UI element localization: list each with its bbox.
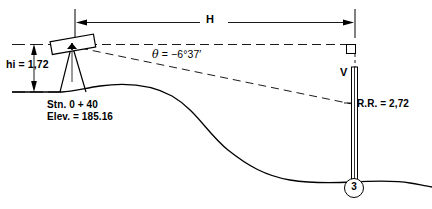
label-rod-reading: R.R. = 2,72 — [357, 98, 409, 110]
label-vertical-angle: θ = −6°37′ — [152, 48, 201, 62]
tripod-leg-right — [73, 48, 86, 92]
label-station: Stn. 0 + 40 — [47, 99, 113, 111]
label-point-number: 3 — [347, 181, 361, 193]
label-instrument-height: hi = 1,72 — [6, 58, 49, 70]
label-vertical-distance: V — [340, 66, 347, 79]
surveying-diagram: H hi = 1,72 θ = −6°37′ Stn. 0 + 40 Elev.… — [0, 0, 432, 209]
arrowhead-hi-bottom-icon — [31, 81, 37, 92]
label-elevation: Elev. = 185.16 — [47, 111, 113, 123]
label-horizontal-distance: H — [206, 13, 214, 26]
theta-value: = −6°37′ — [159, 48, 202, 60]
theta-symbol: θ — [152, 48, 159, 61]
right-angle-marker-icon — [347, 45, 356, 54]
tripod-leg-left — [60, 48, 71, 92]
arrowhead-right-icon — [343, 20, 354, 26]
arrowhead-hi-top-icon — [31, 44, 37, 55]
label-station-block: Stn. 0 + 40 Elev. = 185.16 — [47, 99, 113, 122]
arrowhead-left-icon — [76, 20, 87, 26]
line-of-sight — [80, 48, 352, 104]
